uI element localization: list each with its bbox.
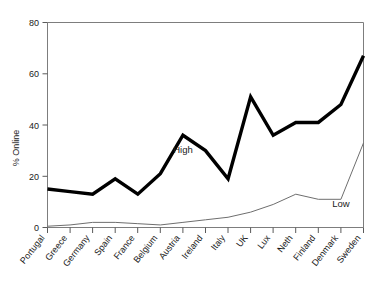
x-category-labels: Portugal Greece Germany Spain France Bel… xyxy=(18,233,363,269)
x-label-spain: Spain xyxy=(92,233,114,257)
x-label-lux: Lux xyxy=(255,233,272,251)
y-tick-label-80: 80 xyxy=(29,18,39,28)
x-label-uk: UK xyxy=(234,233,250,249)
y-axis-title: % Online xyxy=(11,130,21,167)
y-tick-label-0: 0 xyxy=(34,223,39,233)
y-tick-label-60: 60 xyxy=(29,69,39,79)
x-tick-marks xyxy=(48,228,364,234)
line-chart: 80 60 40 20 0 % Online xyxy=(0,0,387,295)
x-label-neth: Neth xyxy=(275,233,295,254)
series-annotation-high: High xyxy=(173,144,193,155)
x-label-austria: Austria xyxy=(157,233,182,261)
series-line-high xyxy=(48,56,364,194)
x-label-belgium: Belgium xyxy=(131,233,159,265)
x-label-sweden: Sweden xyxy=(335,233,363,265)
series-line-low xyxy=(48,143,364,226)
plot-frame xyxy=(48,23,364,228)
series-annotation-low: Low xyxy=(332,198,350,209)
y-tick-label-40: 40 xyxy=(29,121,39,131)
y-tick-labels: 80 60 40 20 0 xyxy=(29,18,39,233)
chart-container: 80 60 40 20 0 % Online xyxy=(0,0,387,295)
x-label-portugal: Portugal xyxy=(18,233,47,266)
x-label-italy: Italy xyxy=(209,233,227,253)
x-label-ireland: Ireland xyxy=(180,233,205,261)
y-tick-marks xyxy=(43,23,48,228)
y-tick-label-20: 20 xyxy=(29,172,39,182)
